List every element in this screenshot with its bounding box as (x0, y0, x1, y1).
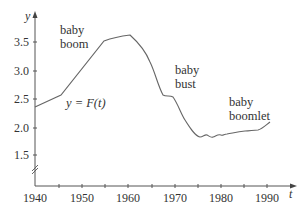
annotation-boomlet-line1: baby (229, 95, 254, 109)
x-tick-label: 1960 (116, 191, 140, 205)
y-axis-label: y (24, 9, 31, 23)
y-axis-arrow-icon (33, 11, 38, 18)
x-tick-label: 1970 (163, 191, 187, 205)
y-tick-label: 3.0 (14, 64, 29, 78)
x-tick-label: 1950 (70, 191, 94, 205)
x-tick-label: 1980 (209, 191, 233, 205)
annotation-bust-line2: bust (175, 77, 196, 91)
annotation-bust-line1: baby (175, 63, 200, 77)
y-tick-label: 2.0 (14, 121, 29, 135)
annotation-boom-line2: boom (60, 37, 89, 51)
chart: y t 3.5 3.0 2.5 2.0 1.5 1940 1950 1960 1… (0, 0, 301, 217)
x-tick-label: 1990 (255, 191, 279, 205)
x-axis-label: t (289, 187, 293, 201)
y-tick-label: 1.5 (14, 148, 29, 162)
y-tick-label: 3.5 (14, 35, 29, 49)
function-label: y = F(t) (64, 96, 106, 110)
annotation-boomlet-line2: boomlet (229, 109, 270, 123)
x-tick-label: 1940 (23, 191, 47, 205)
annotation-boom-line1: baby (60, 23, 85, 37)
y-tick-label: 2.5 (14, 92, 29, 106)
